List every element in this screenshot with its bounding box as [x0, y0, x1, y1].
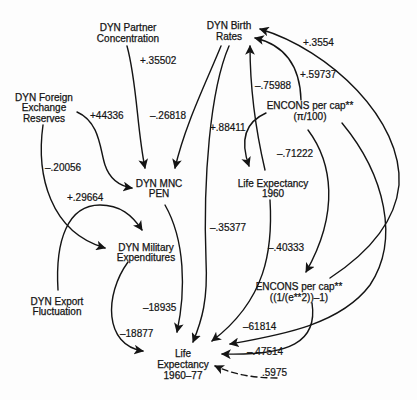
node-label-line: DYN Birth: [207, 20, 251, 31]
node-label-line: 1960: [262, 188, 285, 199]
node-label-line: Exchange: [22, 102, 67, 113]
coef-export-to-military: +.29664: [67, 192, 104, 203]
node-label-line: Expectancy: [157, 359, 209, 370]
edge-birth-to-mnc: [175, 46, 221, 168]
coef-life1960-to-birth: –.75988: [255, 80, 292, 91]
coef-birth-to-life1960-77: –.35377: [210, 222, 247, 233]
node-mnc-pen: DYN MNC PEN: [136, 178, 183, 199]
edge-reserves-to-mnc: [77, 112, 132, 188]
coef-reserves-to-military: –.20056: [45, 162, 82, 173]
coef-reserves-to-mnc: +44336: [90, 110, 124, 121]
node-label-line: ENCONS per cap**: [267, 100, 354, 111]
edge-birth-to-life1960-77: [193, 46, 229, 342]
node-label-line: Reserves: [23, 113, 65, 124]
node-life-expectancy-1960-77: Life Expectancy 1960–77: [157, 348, 209, 381]
coef-encons-pi-to-life1960: +.88411: [210, 122, 246, 133]
node-birth-rates: DYN Birth Rates: [207, 20, 251, 42]
node-label-line: Expenditures: [117, 252, 175, 263]
node-label-line: ENCONS per cap**: [256, 281, 343, 292]
node-label-line: ((1/(e**2))–1): [270, 292, 328, 303]
coef-mnc-to-life1960-77: –18935: [143, 302, 177, 313]
node-military-expenditures: DYN Military Expenditures: [117, 242, 175, 263]
coef-encons-pi-to-birth: +.59737: [300, 69, 337, 80]
coef-encons-pi-to-life1960-77: –61814: [243, 321, 277, 332]
path-diagram: DYN Partner Concentration DYN Birth Rate…: [0, 0, 417, 400]
path-diagram-svg: DYN Partner Concentration DYN Birth Rate…: [0, 0, 417, 400]
node-life-expectancy-1960: Life Expectancy 1960: [238, 178, 309, 199]
node-label-line: Fluctuation: [33, 306, 82, 317]
edges: [41, 29, 399, 378]
node-label-line: Concentration: [97, 33, 159, 44]
coef-birth-to-mnc: –.26818: [150, 110, 187, 121]
node-label-line: DYN Partner: [100, 22, 157, 33]
coef-encons-pi-to-encons-exp: –.71222: [277, 148, 314, 159]
node-encons-pi: ENCONS per cap** (π/100): [267, 100, 354, 122]
coef-life1960-to-life1960-77: –.40333: [268, 242, 305, 253]
node-label-line: (π/100): [293, 111, 326, 122]
coef-military-to-life1960-77: –18877: [120, 328, 154, 339]
node-foreign-exchange-reserves: DYN Foreign Exchange Reserves: [15, 92, 73, 124]
coef-encons-exp-to-life1960-77: –.47514: [247, 346, 284, 357]
node-label-line: Rates: [216, 31, 242, 42]
node-label-line: 1960–77: [164, 370, 203, 381]
node-partner-concentration: DYN Partner Concentration: [97, 22, 159, 44]
node-encons-exp: ENCONS per cap** ((1/(e**2))–1): [256, 281, 343, 303]
node-label-line: Life: [175, 348, 192, 359]
edge-life1960-to-birth: [250, 46, 265, 170]
coef-residual-to-life1960-77: .5975: [262, 367, 287, 378]
coef-encons-exp-to-birth: +.3554: [303, 37, 334, 48]
coef-partner-to-mnc: +.35502: [140, 55, 177, 66]
node-export-fluctuation: DYN Export Fluctuation: [31, 296, 84, 317]
node-label-line: PEN: [149, 188, 170, 199]
edge-reserves-to-military: [41, 125, 105, 248]
coefficient-labels: +.35502 +44336 –.26818 –.20056 +.29664 +…: [45, 37, 337, 378]
